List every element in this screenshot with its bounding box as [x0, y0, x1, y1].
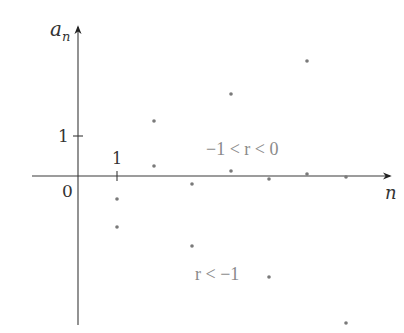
series-damped-points [115, 164, 348, 201]
sequence-scatter-chart: an n 0 1 1 −1 < r < 0 r < −1 [0, 0, 404, 333]
data-point [152, 119, 156, 123]
series-label-damped: −1 < r < 0 [206, 139, 278, 159]
data-point [305, 172, 309, 176]
series-divergent-points [115, 59, 348, 325]
origin-label: 0 [62, 181, 73, 201]
x-axis-label: n [385, 182, 397, 203]
data-point [115, 197, 119, 201]
data-point [115, 225, 119, 229]
data-point [305, 59, 309, 63]
data-point [190, 244, 194, 248]
data-point [267, 177, 271, 181]
data-point [229, 169, 233, 173]
data-point [190, 182, 194, 186]
data-point [229, 92, 233, 96]
y-tick-label-1: 1 [58, 126, 69, 146]
series-label-divergent: r < −1 [195, 264, 239, 284]
x-tick-label-1: 1 [112, 149, 122, 168]
data-point [344, 175, 348, 179]
data-point [267, 275, 271, 279]
data-point [344, 321, 348, 325]
y-axis-label: an [50, 17, 70, 44]
data-point [152, 164, 156, 168]
